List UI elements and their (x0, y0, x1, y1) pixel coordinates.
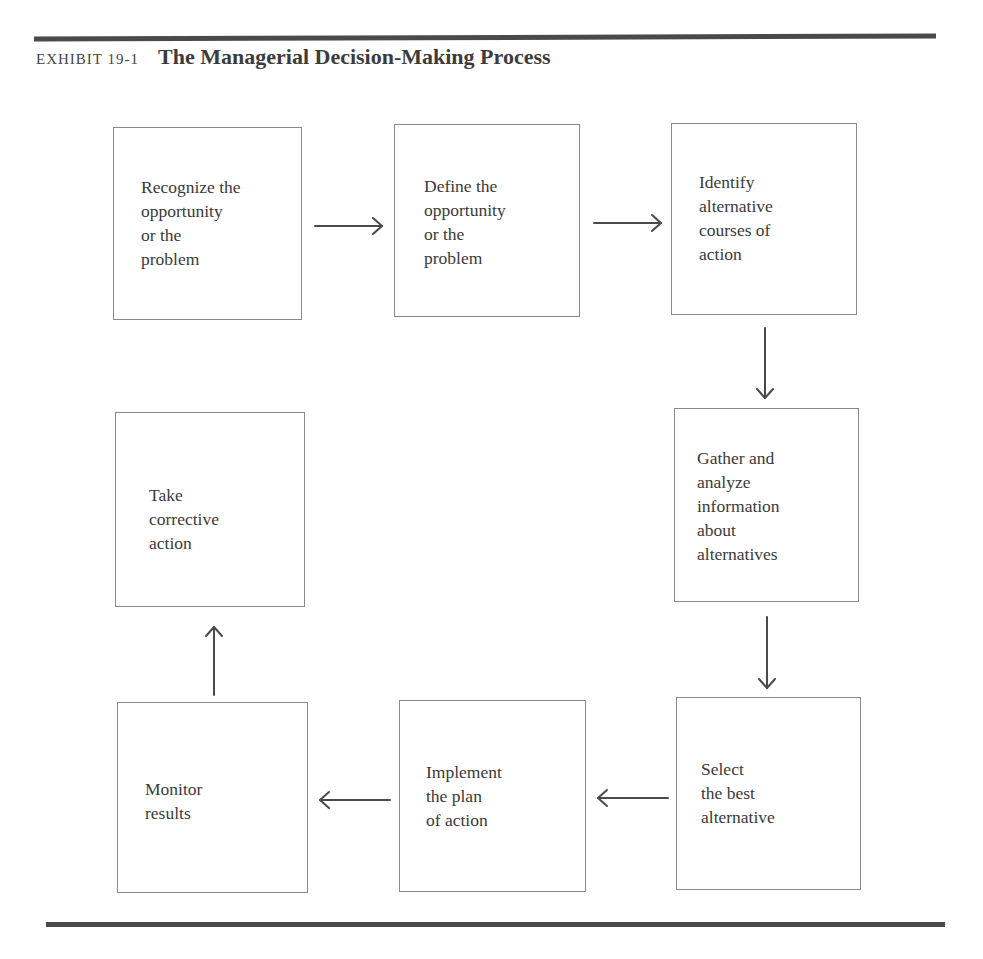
flow-arrows (0, 0, 983, 959)
arrow-right-icon (594, 215, 661, 231)
arrow-down-icon (759, 617, 775, 688)
bottom-rule (46, 922, 945, 927)
arrow-left-icon (598, 790, 668, 806)
arrow-left-icon (320, 792, 390, 808)
arrow-right-icon (315, 218, 382, 234)
arrow-up-icon (206, 627, 222, 695)
arrow-down-icon (757, 328, 773, 398)
